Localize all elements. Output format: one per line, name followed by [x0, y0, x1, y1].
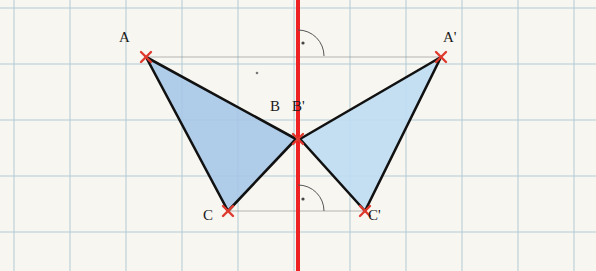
triangle-A-prime-B-prime-C-prime [300, 57, 441, 211]
triangle-ABC [146, 57, 296, 211]
grid-accent-dot [256, 72, 259, 75]
label-C: C [203, 207, 213, 224]
label-B-prime: B' [292, 98, 305, 115]
diagram-canvas: A B B' A' C C' [0, 0, 596, 271]
right-angle-mark-top [298, 30, 324, 56]
label-C-prime: C' [368, 207, 381, 224]
label-A-prime: A' [443, 29, 457, 46]
right-angle-mark-bottom [298, 185, 324, 211]
label-A: A [119, 29, 130, 46]
geometry-figure [0, 0, 596, 271]
label-B: B [270, 98, 280, 115]
